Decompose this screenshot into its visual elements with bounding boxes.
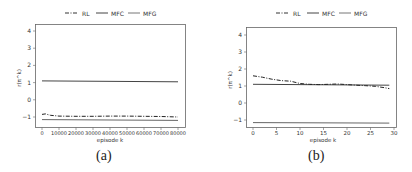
series-mfg [42,120,178,121]
series-lines-a [42,81,178,121]
legend-label-rl: RL [293,10,301,17]
svg-text:40000: 40000 [102,130,118,136]
svg-text:1: 1 [27,79,31,86]
svg-text:2: 2 [238,65,242,72]
plot-frame [36,25,186,128]
svg-text:80000: 80000 [170,130,186,136]
svg-text:3: 3 [27,44,31,51]
legend-label-mfc: MFC [322,10,335,17]
legend-label-mfg: MFG [143,10,157,17]
svg-text:1: 1 [238,82,242,89]
svg-text:70000: 70000 [153,130,169,136]
series-lines-b [253,76,389,123]
caption-b: (b) [308,148,324,164]
svg-text:4: 4 [238,31,242,38]
caption-a: (a) [96,148,112,164]
svg-text:5: 5 [275,130,279,136]
plot-frame [247,28,397,128]
svg-text:25: 25 [367,130,374,136]
x-ticks: 0 5 10 15 20 25 30 [251,128,398,137]
svg-text:0: 0 [251,130,255,136]
svg-text:4: 4 [27,27,31,34]
svg-text:10000: 10000 [51,130,67,136]
series-rl [253,76,389,89]
series-mfc [253,84,389,85]
svg-text:50000: 50000 [119,130,135,136]
y-axis-label: r(π^k) [227,71,233,89]
svg-text:30: 30 [391,130,398,136]
svg-text:20000: 20000 [68,130,84,136]
series-mfc [42,81,178,82]
x-axis-label: episode k [97,137,124,144]
svg-text:0: 0 [238,99,242,106]
svg-text:30000: 30000 [85,130,101,136]
svg-text:3: 3 [238,48,242,55]
svg-text:−1: −1 [22,113,31,120]
svg-text:10: 10 [297,130,304,136]
legend-label-rl: RL [82,10,90,17]
svg-text:2: 2 [27,61,31,68]
chart-a: RL MFC MFG 4 3 2 1 0 −1 r(π^k) 0 10000 2… [0,0,206,172]
legend-label-mfc: MFC [111,10,124,17]
svg-text:0: 0 [27,96,31,103]
svg-text:60000: 60000 [136,130,152,136]
x-axis-label: episode k [310,137,337,144]
y-axis-label: r(π^k) [16,69,22,87]
x-ticks: 0 10000 20000 30000 40000 50000 60000 70… [40,128,186,137]
y-ticks: 4 3 2 1 0 −1 [22,27,35,120]
legend-b: RL MFC MFG [276,10,368,17]
svg-text:0: 0 [40,130,43,136]
svg-text:20: 20 [344,130,351,136]
chart-b: RL MFC MFG 4 3 2 1 0 −1 r(π^k) 0 5 10 15… [206,0,412,172]
legend-a: RL MFC MFG [65,10,157,17]
series-mfg [253,123,389,124]
svg-text:−1: −1 [233,116,242,123]
series-rl [42,114,178,117]
legend-label-mfg: MFG [354,10,368,17]
svg-text:15: 15 [320,130,327,136]
y-ticks: 4 3 2 1 0 −1 [233,31,246,123]
